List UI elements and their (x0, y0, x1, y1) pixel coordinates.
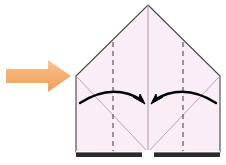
bottom-band-right (154, 152, 220, 157)
step-direction-arrow (6, 60, 71, 92)
paper-bottom-edge-band (76, 150, 220, 158)
bottom-band-right-highlight (154, 151, 220, 152)
bottom-band-center-gap (142, 150, 154, 158)
origami-illustration (0, 0, 226, 165)
bottom-band-left (76, 152, 142, 157)
origami-diagram (0, 0, 226, 165)
arrow-right-icon (6, 60, 71, 92)
bottom-band-left-highlight (76, 151, 142, 152)
